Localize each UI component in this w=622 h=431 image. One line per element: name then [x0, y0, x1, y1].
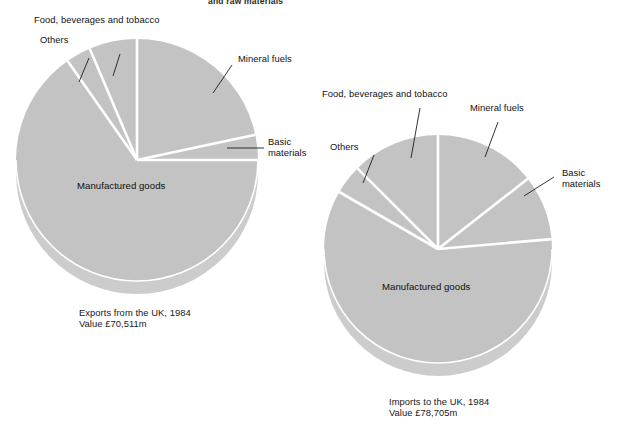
caption-imports-line2: Value £78,705m — [389, 407, 457, 419]
pie-chart-canvas — [0, 0, 622, 431]
figure-title: and raw materials — [208, 0, 283, 6]
label-exports-basic-materials-line2: materials — [268, 147, 306, 158]
label-imports-manufactured-goods: Manufactured goods — [382, 281, 470, 292]
pie-exports — [16, 39, 264, 294]
label-exports-food: Food, beverages and tobacco — [34, 14, 159, 25]
label-exports-others: Others — [40, 34, 68, 45]
caption-exports-line2: Value £70,511m — [79, 318, 147, 330]
label-imports-others: Others — [330, 141, 358, 152]
label-exports-manufactured-goods: Manufactured goods — [77, 180, 165, 191]
caption-exports-line1: Exports from the UK, 1984 — [79, 307, 191, 319]
label-imports-food: Food, beverages and tobacco — [322, 88, 447, 99]
label-imports-basic-materials-line1: Basic — [562, 167, 585, 178]
label-exports-basic-materials-line1: Basic — [268, 136, 291, 147]
label-exports-mineral-fuels: Mineral fuels — [238, 53, 292, 64]
label-imports-mineral-fuels: Mineral fuels — [470, 102, 524, 113]
label-imports-basic-materials-line2: materials — [562, 178, 600, 189]
pie-imports — [324, 108, 554, 376]
pie-chart-figure: and raw materials Food, beverages and to… — [0, 0, 622, 431]
caption-imports-line1: Imports to the UK, 1984 — [389, 396, 489, 408]
